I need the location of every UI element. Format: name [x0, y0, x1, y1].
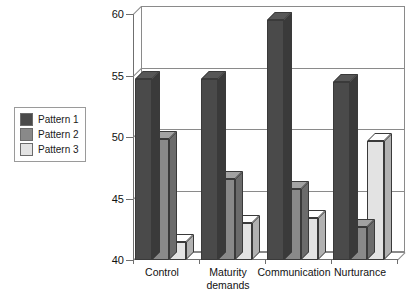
bar-side-face	[235, 171, 243, 260]
bar-front-face	[333, 82, 350, 260]
bar-chart: Pattern 1 Pattern 2 Pattern 3 4045505560…	[0, 0, 416, 294]
bar-side-face	[169, 131, 177, 260]
legend-item: Pattern 1	[20, 112, 80, 127]
bar-side-face	[152, 71, 160, 260]
bar	[267, 20, 284, 260]
y-axis-tick-label: 50	[112, 131, 124, 143]
bar-side-face	[384, 133, 392, 260]
x-axis-label-line-1: Maturity	[206, 266, 249, 279]
legend-swatch-pattern-1	[20, 113, 33, 126]
x-axis-label-line-2: demands	[206, 279, 249, 292]
x-axis-labels: ControlMaturitydemandsCommunicationNurtu…	[133, 264, 413, 294]
legend-swatch-pattern-3	[20, 143, 33, 156]
legend-label-pattern-1: Pattern 1	[38, 114, 79, 125]
bar	[333, 82, 350, 260]
bar-side-face	[284, 12, 292, 260]
x-axis-category-label: Maturitydemands	[206, 266, 249, 291]
bar-side-face	[252, 215, 260, 260]
gridline	[141, 6, 405, 7]
bar-side-face	[350, 74, 358, 260]
y-axis-tick-label: 60	[112, 8, 124, 20]
y-axis-tick	[126, 14, 133, 15]
legend-item: Pattern 3	[20, 142, 80, 157]
bar-front-face	[201, 79, 218, 260]
x-axis-label-line-1: Control	[145, 266, 179, 279]
x-axis-label-line-1: Nurturance	[334, 266, 386, 279]
bar-side-face	[218, 71, 226, 260]
legend-label-pattern-3: Pattern 3	[38, 144, 79, 155]
y-axis-tick	[126, 260, 133, 261]
bar-side-face	[301, 181, 309, 260]
bar-front-face	[135, 79, 152, 260]
legend-swatch-pattern-2	[20, 128, 33, 141]
plot-area	[133, 6, 405, 260]
x-axis-category-label: Communication	[258, 266, 331, 279]
bar-front-face	[267, 20, 284, 260]
x-axis-category-label: Control	[145, 266, 179, 279]
y-axis-tick-label: 40	[112, 254, 124, 266]
y-axis: 4045505560	[96, 6, 124, 260]
bar-side-face	[318, 210, 326, 260]
legend-label-pattern-2: Pattern 2	[38, 129, 79, 140]
legend-item: Pattern 2	[20, 127, 80, 142]
chart-legend: Pattern 1 Pattern 2 Pattern 3	[14, 107, 86, 162]
x-axis-label-line-1: Communication	[258, 266, 331, 279]
bar	[201, 79, 218, 260]
y-axis-tick-label: 45	[112, 193, 124, 205]
y-axis-tick	[126, 137, 133, 138]
y-axis-tick-label: 55	[112, 70, 124, 82]
bar	[135, 79, 152, 260]
x-axis-category-label: Nurturance	[334, 266, 386, 279]
